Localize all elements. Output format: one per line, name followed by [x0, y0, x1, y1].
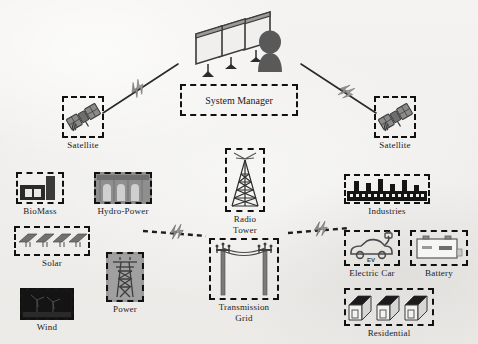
- system-manager-label: System Manager: [205, 95, 273, 106]
- bolt-icon: [169, 224, 184, 239]
- solar-panels-icon: [17, 229, 87, 253]
- wind-turbines-icon: [23, 291, 71, 317]
- link-grid-to-loads: [288, 221, 350, 236]
- transmission-pylons-icon: [212, 241, 276, 297]
- radio-tower-box[interactable]: [225, 148, 265, 212]
- transmission-grid-label-line2: Grid: [219, 313, 270, 324]
- hydro-label: Hydro-Power: [97, 206, 148, 216]
- radio-tower-label-line1: Radio: [233, 214, 257, 225]
- satellite-icon: [65, 99, 101, 135]
- satellite-left-label: Satellite: [67, 140, 98, 150]
- diagram-canvas: System Manager Satellite: [0, 0, 478, 344]
- electric-car-node[interactable]: EV Electric Car: [344, 230, 400, 266]
- link-sources-to-grid: [143, 224, 206, 239]
- wind-label: Wind: [37, 322, 57, 332]
- power-pylon-icon: [109, 255, 141, 299]
- satellite-icon: [377, 99, 413, 135]
- industries-label: Industries: [368, 206, 406, 216]
- transmission-grid-label: Transmission Grid: [219, 302, 270, 323]
- transmission-grid-node[interactable]: Transmission Grid: [209, 238, 279, 300]
- satellite-right-label: Satellite: [379, 140, 410, 150]
- link-satellite-right-to-manager: [301, 64, 376, 113]
- wind-box[interactable]: [20, 288, 74, 320]
- system-manager-node[interactable]: System Manager: [180, 84, 298, 116]
- house-icon: [349, 296, 371, 320]
- biomass-label: BioMass: [23, 206, 56, 216]
- industries-box[interactable]: [344, 174, 430, 204]
- power-box[interactable]: [106, 252, 144, 302]
- electric-car-box[interactable]: EV: [344, 230, 400, 266]
- biomass-plant-icon: [19, 175, 61, 201]
- battery-node[interactable]: Battery: [410, 230, 468, 266]
- bolt-icon: [337, 82, 357, 102]
- solar-node[interactable]: Solar: [14, 226, 90, 256]
- house-icon: [377, 296, 399, 320]
- radio-tower-label: Radio Tower: [233, 214, 257, 235]
- hydro-dam-icon: [97, 175, 149, 201]
- link-satellite-left-to-manager: [103, 64, 178, 113]
- radio-tower-label-line2: Tower: [233, 225, 257, 236]
- battery-label: Battery: [425, 268, 453, 278]
- biomass-node[interactable]: BioMass: [16, 172, 64, 204]
- hydro-node[interactable]: Hydro-Power: [94, 172, 152, 204]
- houses-icon: [347, 291, 431, 323]
- battery-icon: [413, 233, 465, 263]
- transmission-grid-box[interactable]: [209, 238, 279, 300]
- electric-car-icon: EV: [347, 233, 397, 263]
- monitor-middle-icon: [219, 19, 245, 69]
- operator-silhouette-icon: [258, 31, 282, 73]
- residential-label: Residential: [368, 328, 411, 338]
- ev-badge-text: EV: [367, 257, 375, 263]
- monitor-front-icon: [196, 26, 222, 77]
- satellite-left-node[interactable]: Satellite: [62, 96, 104, 138]
- radio-tower-node[interactable]: Radio Tower: [225, 148, 265, 212]
- house-icon: [405, 296, 427, 320]
- satellite-right-box[interactable]: [374, 96, 416, 138]
- solar-label: Solar: [42, 258, 62, 268]
- radio-tower-icon: [227, 151, 263, 209]
- system-manager-illustration: [186, 8, 296, 88]
- hydro-box[interactable]: [94, 172, 152, 204]
- biomass-box[interactable]: [16, 172, 64, 204]
- bolt-icon: [313, 221, 328, 236]
- monitors-operator-icon: [186, 8, 296, 88]
- wind-node[interactable]: Wind: [20, 288, 74, 320]
- system-manager-box[interactable]: System Manager: [180, 84, 298, 116]
- transmission-grid-label-line1: Transmission: [219, 302, 270, 313]
- battery-box[interactable]: [410, 230, 468, 266]
- power-label: Power: [113, 304, 137, 314]
- factories-icon: [347, 177, 427, 201]
- bolt-icon: [128, 78, 148, 98]
- solar-box[interactable]: [14, 226, 90, 256]
- satellite-right-node[interactable]: Satellite: [374, 96, 416, 138]
- electric-car-label: Electric Car: [349, 268, 395, 278]
- power-node[interactable]: Power: [106, 252, 144, 302]
- residential-box[interactable]: [344, 288, 434, 326]
- industries-node[interactable]: Industries: [344, 174, 430, 204]
- satellite-left-box[interactable]: [62, 96, 104, 138]
- residential-node[interactable]: Residential: [344, 288, 434, 326]
